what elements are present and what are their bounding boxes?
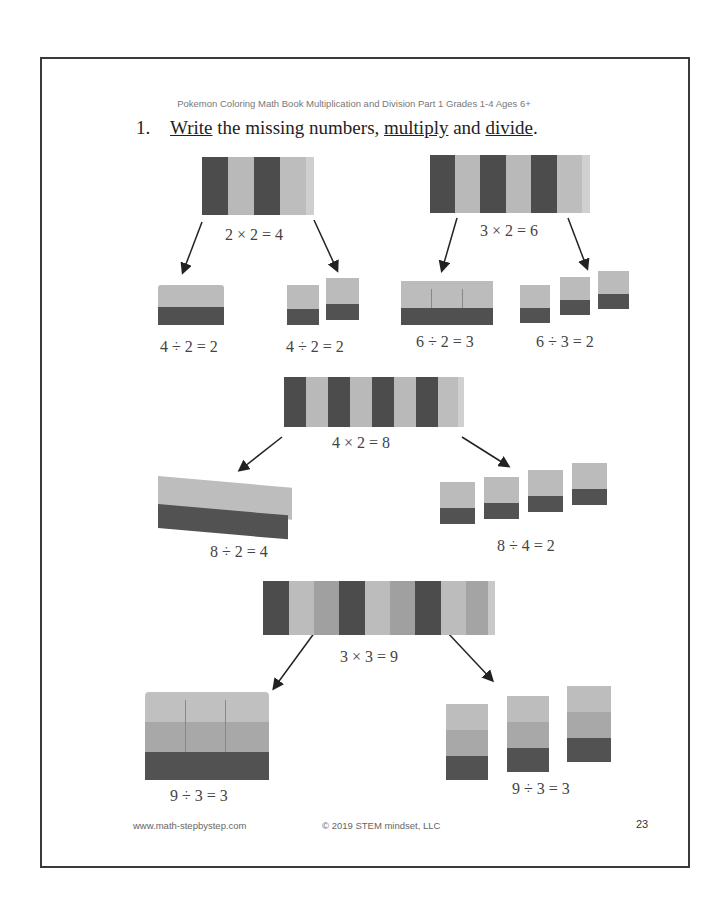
block-group-2-bricks [158,285,224,325]
block-group-3-towers [145,692,269,780]
block-stick-4x2 [284,377,464,427]
block-single-brick [528,470,563,512]
block-single-brick [572,463,607,505]
footer-copyright: © 2019 STEM mindset, LLC [322,820,440,831]
division-equation: 8 ÷ 2 = 4 [210,543,268,561]
division-equation: 9 ÷ 3 = 3 [170,787,228,805]
block-single-brick [598,271,629,309]
division-equation: 9 ÷ 3 = 3 [512,780,570,798]
footer-website: www.math-stepbystep.com [133,820,247,831]
multiplication-equation: 3 × 2 = 6 [480,222,538,240]
block-tower [446,704,488,780]
block-single-brick [520,285,550,323]
block-tower [567,686,611,762]
page-number: 23 [636,818,648,830]
block-tower [507,696,549,772]
multiplication-equation: 3 × 3 = 9 [340,648,398,666]
block-single-brick [440,482,475,524]
block-single-brick [326,278,359,320]
block-stick-3x3 [263,581,495,635]
multiplication-equation: 4 × 2 = 8 [332,434,390,452]
block-group-3-bricks [401,281,493,325]
multiplication-equation: 2 × 2 = 4 [225,226,283,244]
division-equation: 8 ÷ 4 = 2 [497,537,555,555]
block-stick-2x2 [202,157,314,215]
division-equation: 4 ÷ 2 = 2 [286,338,344,356]
division-equation: 6 ÷ 3 = 2 [536,333,594,351]
block-single-brick [484,477,519,519]
division-equation: 4 ÷ 2 = 2 [160,338,218,356]
block-single-brick [560,277,590,315]
block-stick-3x2 [430,155,590,213]
block-single-brick [287,285,319,325]
block-group-4-bricks [158,476,292,532]
division-equation: 6 ÷ 2 = 3 [416,333,474,351]
